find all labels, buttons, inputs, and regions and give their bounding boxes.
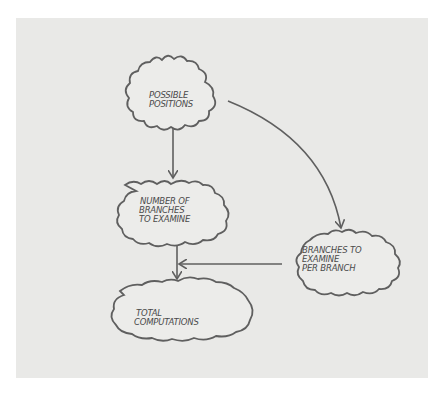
node-label: COMPUTATIONS xyxy=(134,317,199,327)
node-label: TO EXAMINE xyxy=(139,214,191,224)
node-total-computations: TOTAL COMPUTATIONS xyxy=(111,277,252,340)
node-possible-positions: POSSIBLE POSITIONS xyxy=(126,56,216,130)
influence-diagram: POSSIBLE POSITIONS NUMBER OF BRANCHES TO… xyxy=(0,0,435,396)
node-label: PER BRANCH xyxy=(302,263,356,273)
edge-positions-to-per-branch xyxy=(228,101,341,228)
node-branches-per-branch: BRANCHES TO EXAMINE PER BRANCH xyxy=(296,230,399,296)
node-label: POSITIONS xyxy=(149,99,194,109)
node-number-of-branches: NUMBER OF BRANCHES TO EXAMINE xyxy=(117,181,228,247)
